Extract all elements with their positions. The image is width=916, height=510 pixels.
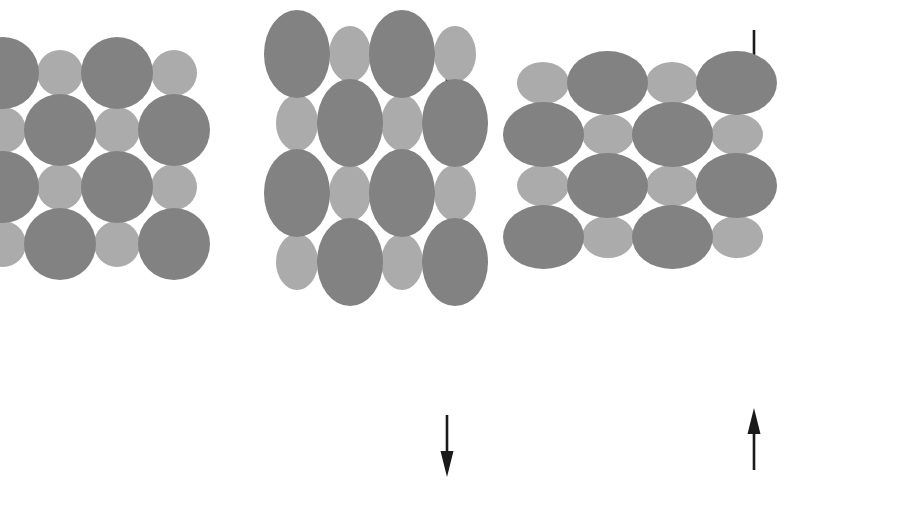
large-particle [0,37,39,109]
large-particle [138,94,210,166]
small-particle [94,221,140,267]
tension-arrow-bottom-glyph [436,415,458,477]
large-particle [369,149,435,237]
large-particle [503,102,584,167]
small-particle [329,26,371,82]
small-particle [381,234,423,290]
small-particle [151,50,197,96]
large-particle [696,153,777,218]
lattice-deformation-figure: Three square arrays of alternating large… [0,0,916,510]
small-particle [711,114,763,155]
large-particle [81,151,153,223]
small-particle [517,62,569,103]
large-particle [567,153,648,218]
small-particle [276,234,318,290]
small-particle [329,165,371,221]
large-particle [317,218,383,306]
large-particle [422,79,488,167]
large-particle [632,102,713,167]
large-particle [138,208,210,280]
tension-arrow-bottom [436,415,458,477]
large-particle [369,10,435,98]
small-particle [434,165,476,221]
large-particle [0,151,39,223]
large-particle [264,10,330,98]
small-particle [94,107,140,153]
small-particle [646,165,698,206]
small-particle [517,165,569,206]
large-particle [24,94,96,166]
small-particle [434,26,476,82]
large-particle [81,37,153,109]
large-particle [503,205,584,270]
small-particle [582,216,634,257]
large-particle [632,205,713,270]
small-particle [711,216,763,257]
small-particle [0,107,26,153]
compression-arrow-bottom [743,408,765,470]
small-particle [151,164,197,210]
small-particle [37,50,83,96]
large-particle [567,51,648,116]
large-particle [264,149,330,237]
large-particle [696,51,777,116]
large-particle [24,208,96,280]
large-particle [317,79,383,167]
small-particle [381,95,423,151]
small-particle [0,221,26,267]
small-particle [276,95,318,151]
large-particle [422,218,488,306]
small-particle [582,114,634,155]
compression-arrow-bottom-glyph [743,408,765,470]
small-particle [646,62,698,103]
small-particle [37,164,83,210]
